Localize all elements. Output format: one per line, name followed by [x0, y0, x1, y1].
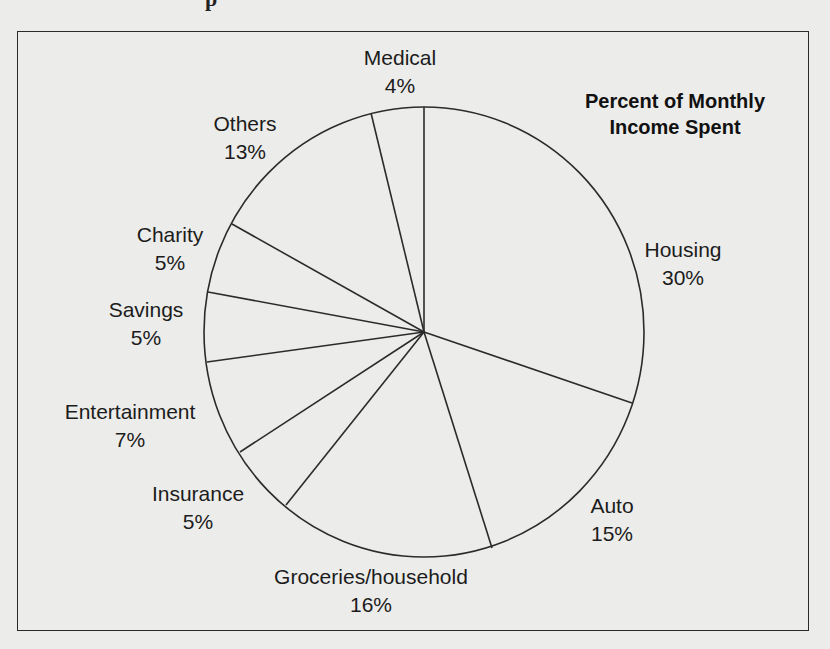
- slice-divider-entertainment-savings: [207, 332, 424, 362]
- slice-label-charity: Charity 5%: [137, 221, 204, 277]
- slice-label-auto: Auto 15%: [590, 492, 633, 548]
- slice-label-entertainment: Entertainment 7%: [65, 398, 196, 454]
- slice-name: Others: [213, 110, 276, 138]
- slice-name: Savings: [109, 296, 184, 324]
- slice-value: 16%: [274, 591, 468, 619]
- slice-name: Auto: [590, 492, 633, 520]
- slice-label-others: Others 13%: [213, 110, 276, 166]
- chart-title-line-1: Percent of Monthly: [585, 88, 765, 114]
- slice-value: 13%: [213, 138, 276, 166]
- slice-name: Charity: [137, 221, 204, 249]
- slice-label-housing: Housing 30%: [644, 236, 721, 292]
- slice-name: Medical: [364, 44, 436, 72]
- slice-value: 15%: [590, 520, 633, 548]
- slice-label-groceries: Groceries/household 16%: [274, 563, 468, 619]
- slice-value: 30%: [644, 264, 721, 292]
- slice-divider-charity-others: [232, 224, 424, 332]
- slice-value: 5%: [152, 508, 244, 536]
- slice-name: Groceries/household: [274, 563, 468, 591]
- slice-divider-auto-groceries: [424, 332, 492, 548]
- slice-name: Entertainment: [65, 398, 196, 426]
- slice-divider-savings-charity: [208, 292, 424, 332]
- chart-title-line-2: Income Spent: [585, 114, 765, 140]
- slice-value: 7%: [65, 426, 196, 454]
- slice-value: 4%: [364, 72, 436, 100]
- slice-divider-groceries-insurance: [286, 332, 424, 505]
- slice-label-savings: Savings 5%: [109, 296, 184, 352]
- slice-name: Housing: [644, 236, 721, 264]
- slice-value: 5%: [109, 324, 184, 352]
- slice-divider-others-medical: [371, 113, 424, 332]
- slice-label-medical: Medical 4%: [364, 44, 436, 100]
- slice-name: Insurance: [152, 480, 244, 508]
- chart-title: Percent of Monthly Income Spent: [585, 88, 765, 140]
- slice-divider-insurance-entertainment: [240, 332, 424, 452]
- slice-value: 5%: [137, 249, 204, 277]
- slice-label-insurance: Insurance 5%: [152, 480, 244, 536]
- slice-divider-housing-auto: [424, 332, 632, 403]
